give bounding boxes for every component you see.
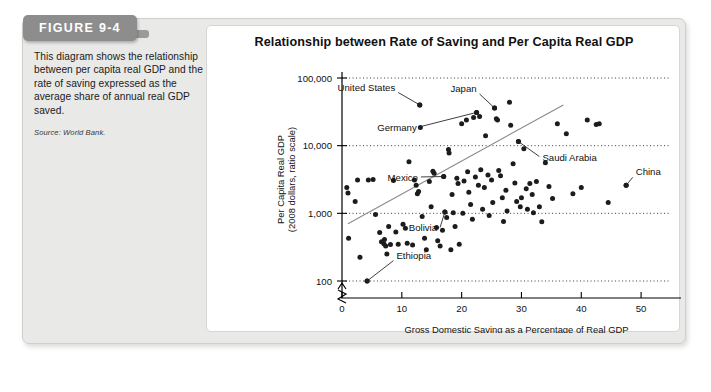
svg-text:(2008 dollars, ratio scale): (2008 dollars, ratio scale) xyxy=(286,127,297,232)
figure-badge: FIGURE 9-4 xyxy=(23,15,137,41)
svg-text:Germany: Germany xyxy=(377,122,417,133)
svg-text:Bolivia: Bolivia xyxy=(409,222,438,233)
svg-text:Saudi Arabia: Saudi Arabia xyxy=(542,152,597,163)
svg-text:United States: United States xyxy=(338,82,396,93)
figure-badge-label: FIGURE 9-4 xyxy=(23,15,137,41)
caption-block: This diagram shows the relationship betw… xyxy=(34,50,210,137)
figure-card: FIGURE 9-4 This diagram shows the relati… xyxy=(22,18,686,344)
svg-text:50: 50 xyxy=(636,303,647,314)
svg-text:20: 20 xyxy=(456,303,467,314)
svg-text:0: 0 xyxy=(339,303,344,314)
svg-text:1,000: 1,000 xyxy=(308,208,332,219)
svg-text:Ethiopia: Ethiopia xyxy=(396,250,431,261)
svg-text:Gross Domestic Saving as a Per: Gross Domestic Saving as a Percentage of… xyxy=(404,324,628,333)
plot-panel: Relationship between Rate of Saving and … xyxy=(206,25,680,332)
figure-source: Source: World Bank. xyxy=(34,128,210,137)
svg-text:Mexico: Mexico xyxy=(388,172,418,183)
svg-text:Per Capita Real GDP: Per Capita Real GDP xyxy=(275,135,286,224)
svg-text:100,000: 100,000 xyxy=(297,73,332,84)
svg-text:40: 40 xyxy=(576,303,587,314)
figure-caption: This diagram shows the relationship betw… xyxy=(34,50,210,117)
running-head xyxy=(14,0,704,11)
svg-text:10: 10 xyxy=(396,303,407,314)
svg-text:100: 100 xyxy=(316,276,332,287)
svg-text:China: China xyxy=(636,166,662,177)
figure-badge-notch xyxy=(135,30,149,38)
svg-text:30: 30 xyxy=(516,303,527,314)
svg-text:10,000: 10,000 xyxy=(303,140,332,151)
svg-text:Japan: Japan xyxy=(450,83,476,94)
scatter-chart: 1001,00010,000100,00001020304050United S… xyxy=(207,26,681,333)
